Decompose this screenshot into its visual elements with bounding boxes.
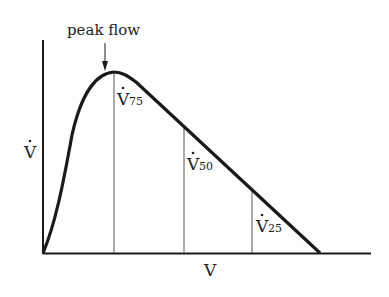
svg-text:50: 50 bbox=[199, 160, 213, 173]
y-axis-label: V bbox=[23, 140, 37, 162]
svg-text:V: V bbox=[186, 154, 200, 174]
v25-label: V 25 bbox=[255, 214, 282, 236]
peak-flow-label: peak flow bbox=[67, 21, 140, 39]
svg-text:25: 25 bbox=[268, 222, 282, 235]
svg-text:V: V bbox=[255, 216, 269, 236]
v75-label: V 75 bbox=[116, 87, 143, 109]
svg-text:75: 75 bbox=[129, 95, 143, 108]
v50-label: V 50 bbox=[186, 152, 213, 174]
svg-text:V: V bbox=[116, 89, 130, 109]
x-axis-label: V bbox=[203, 260, 217, 280]
flow-volume-diagram: peak flow V V V 75 V 50 V 25 bbox=[0, 0, 389, 297]
svg-text:V: V bbox=[23, 142, 37, 162]
peak-arrow-head bbox=[102, 61, 108, 71]
